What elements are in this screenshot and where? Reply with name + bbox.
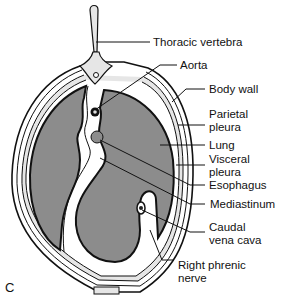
label-aorta: Aorta (180, 59, 208, 72)
label-body-wall: Body wall (209, 83, 258, 96)
sternum (94, 287, 119, 294)
esophagus-shape (91, 131, 103, 143)
label-esophagus: Esophagus (209, 179, 267, 192)
label-caudal-vena-cava: Caudal vena cava (209, 221, 261, 246)
label-parietal-pleura: Parietal pleura (209, 108, 248, 133)
panel-letter: C (5, 280, 14, 295)
label-mediastinum: Mediastinum (210, 198, 275, 211)
label-thoracic-vertebra: Thoracic vertebra (153, 36, 242, 49)
thoracic-vertebra-shape (90, 6, 98, 53)
label-lung: Lung (209, 139, 235, 152)
label-right-phrenic-nerve: Right phrenic nerve (178, 259, 246, 284)
label-visceral-pleura: Visceral pleura (209, 153, 250, 178)
